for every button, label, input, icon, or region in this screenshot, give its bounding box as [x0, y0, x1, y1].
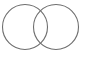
right-set-circle — [34, 5, 79, 50]
left-set-circle — [3, 5, 48, 50]
venn-diagram — [0, 0, 85, 59]
